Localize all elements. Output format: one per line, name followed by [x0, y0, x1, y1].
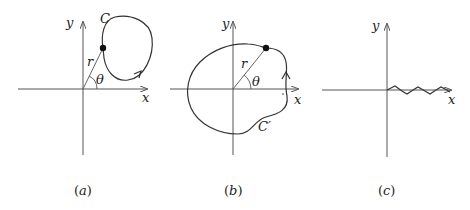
panel-caption: (c)	[378, 183, 395, 198]
panel-c: y x (c)	[322, 18, 456, 198]
angle-label: θ	[252, 74, 260, 89]
angle-arc	[244, 75, 251, 89]
y-axis-label: y	[221, 16, 230, 31]
y-axis-label: y	[371, 18, 380, 33]
panel-caption: (b)	[224, 183, 242, 198]
start-dot	[282, 93, 284, 95]
radius-label: r	[87, 54, 94, 69]
x-axis-label: x	[448, 92, 456, 107]
panel-b: y x C′ r θ (b)	[170, 16, 302, 198]
point-marker	[100, 45, 106, 51]
panel-a: y x C r θ (a)	[18, 11, 152, 198]
x-axis-label: x	[142, 90, 150, 105]
angle-label: θ	[96, 72, 104, 87]
curve-label: C	[100, 11, 110, 26]
panel-caption: (a)	[74, 183, 92, 198]
x-axis-label: x	[294, 92, 302, 107]
figure-canvas: y x C r θ (a) y x C′ r θ (b) y x (c)	[0, 0, 470, 210]
radius-label: r	[241, 56, 248, 71]
point-marker	[263, 45, 269, 51]
curve-label: C′	[258, 119, 271, 134]
y-axis-label: y	[65, 15, 74, 30]
